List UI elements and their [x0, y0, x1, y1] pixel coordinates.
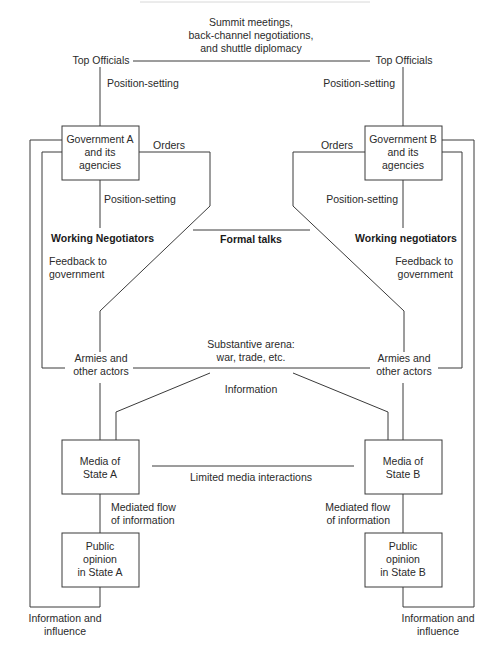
- state-b-working-negotiators: Working negotiators: [355, 232, 457, 244]
- top-channel-line-3: and shuttle diplomacy: [200, 42, 302, 54]
- limited-media-label: Limited media interactions: [190, 471, 312, 483]
- top-channel-line-1: Summit meetings,: [209, 16, 293, 28]
- state-a-position-setting-top: Position-setting: [107, 77, 179, 89]
- top-channel-line-2: back-channel negotiations,: [189, 29, 314, 41]
- information-label: Information: [225, 383, 278, 395]
- state-b-mediated-flow-line-2: of information: [326, 514, 390, 526]
- state-b-armies-line-2: other actors: [376, 365, 431, 377]
- substantive-arena-line-1: Substantive arena:: [207, 338, 295, 350]
- state-b-media-box: [365, 440, 442, 494]
- state-b-position-setting-mid: Position-setting: [326, 193, 398, 205]
- state-a-media-line-1: Media of: [80, 455, 120, 467]
- state-b-feedback-line-2: government: [398, 268, 454, 280]
- state-b-media-line-2: State B: [386, 468, 420, 480]
- substantive-arena-line-2: war, trade, etc.: [216, 351, 286, 363]
- center-links: Formal talks Substantive arena: war, tra…: [133, 230, 370, 483]
- state-a-mediated-flow-line-1: Mediated flow: [111, 501, 176, 513]
- state-a-mediated-flow-line-2: of information: [111, 514, 175, 526]
- state-b-feedback-line-1: Feedback to: [395, 255, 453, 267]
- state-b-public-line-3: in State B: [380, 566, 426, 578]
- state-a-top-officials: Top Officials: [73, 54, 130, 66]
- state-b-public-line-2: opinion: [386, 553, 420, 565]
- state-b-armies-line-1: Armies and: [377, 352, 430, 364]
- state-a-orders-line: [100, 152, 210, 352]
- state-b-government-line-2: and its: [388, 146, 419, 158]
- state-b-orders-label: Orders: [321, 139, 353, 151]
- two-level-negotiation-diagram: Summit meetings, back-channel negotiatio…: [0, 0, 502, 661]
- state-b-info-influence-line-1: Information and: [402, 612, 475, 624]
- state-a-public-line-2: opinion: [83, 553, 117, 565]
- state-a-government-line-1: Government A: [66, 133, 133, 145]
- state-a-feedback-line-1: Feedback to: [49, 255, 107, 267]
- state-a-armies-line-2: other actors: [73, 365, 128, 377]
- state-b-public-line-1: Public: [389, 540, 418, 552]
- state-a-government-line-2: and its: [85, 146, 116, 158]
- state-b-position-setting-top: Position-setting: [323, 77, 395, 89]
- state-b-column: Top Officials Position-setting Governmen…: [293, 54, 475, 637]
- state-b-info-influence-line-2: influence: [417, 625, 459, 637]
- state-b-information-line: [293, 373, 388, 440]
- state-a-media-box: [62, 440, 139, 494]
- state-a-public-line-3: in State A: [78, 566, 123, 578]
- state-b-top-officials: Top Officials: [376, 54, 433, 66]
- state-a-info-influence-line-2: influence: [44, 625, 86, 637]
- state-a-position-setting-mid: Position-setting: [104, 193, 176, 205]
- state-a-info-influence-line-1: Information and: [29, 612, 102, 624]
- top-channel: Summit meetings, back-channel negotiatio…: [133, 16, 370, 61]
- state-a-information-line: [116, 373, 210, 440]
- state-a-armies-line-1: Armies and: [74, 352, 127, 364]
- state-a-feedback-line-2: government: [49, 268, 105, 280]
- state-b-government-line-3: agencies: [382, 159, 424, 171]
- state-a-government-line-3: agencies: [79, 159, 121, 171]
- state-b-media-line-1: Media of: [383, 455, 423, 467]
- formal-talks-label: Formal talks: [220, 233, 282, 245]
- state-b-orders-line: [293, 152, 404, 352]
- state-a-column: Top Officials Position-setting Governmen…: [29, 54, 210, 637]
- state-a-working-negotiators: Working Negotiators: [51, 232, 154, 244]
- state-a-media-line-2: State A: [83, 468, 117, 480]
- state-b-mediated-flow-line-1: Mediated flow: [325, 501, 390, 513]
- state-b-government-line-1: Government B: [369, 133, 437, 145]
- state-a-orders-label: Orders: [153, 139, 185, 151]
- state-a-public-line-1: Public: [86, 540, 115, 552]
